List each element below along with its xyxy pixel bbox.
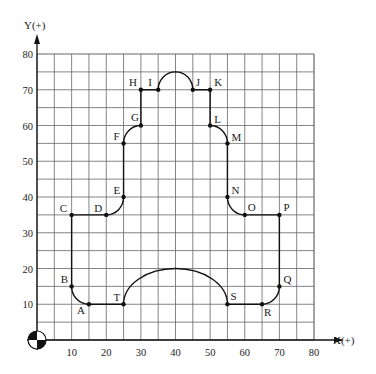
point-label: E	[114, 184, 121, 196]
point-j	[191, 88, 195, 92]
x-tick-label: 20	[101, 347, 112, 358]
point-f	[121, 141, 125, 145]
work-zero-quadrant-icon	[28, 331, 46, 349]
grid	[37, 54, 314, 340]
point-o	[243, 213, 247, 217]
diagram-canvas: 10203040506070801020304050607080 ABCDEFG…	[0, 0, 376, 374]
point-s	[225, 302, 229, 306]
point-label: F	[114, 130, 120, 142]
point-label: B	[61, 273, 68, 285]
point-label: P	[283, 201, 289, 213]
point-label: J	[196, 76, 201, 88]
point-label: O	[248, 201, 256, 213]
point-l	[208, 123, 212, 127]
point-n	[225, 195, 229, 199]
point-k	[208, 88, 212, 92]
y-axis-label: Y(+)	[24, 19, 46, 32]
point-c	[69, 213, 73, 217]
y-tick-label: 20	[23, 264, 34, 275]
point-label: M	[231, 131, 241, 143]
axes: 10203040506070801020304050607080	[23, 34, 345, 358]
y-tick-label: 10	[23, 299, 34, 310]
point-label: R	[264, 306, 272, 318]
x-tick-label: 60	[240, 347, 251, 358]
point-label: S	[230, 290, 236, 302]
point-q	[277, 284, 281, 288]
point-g	[139, 123, 143, 127]
x-tick-label: 80	[309, 347, 320, 358]
point-label: N	[231, 184, 239, 196]
point-e	[121, 195, 125, 199]
x-tick-label: 10	[66, 347, 77, 358]
y-tick-label: 40	[23, 192, 34, 203]
y-tick-label: 80	[23, 49, 34, 60]
y-tick-label: 30	[23, 228, 34, 239]
point-m	[225, 141, 229, 145]
point-p	[277, 213, 281, 217]
point-label: K	[214, 76, 222, 88]
y-tick-label: 70	[23, 85, 34, 96]
point-label: A	[77, 304, 85, 316]
point-label: C	[60, 202, 67, 214]
x-tick-label: 30	[136, 347, 147, 358]
x-tick-label: 50	[205, 347, 216, 358]
point-t	[121, 302, 125, 306]
point-i	[156, 88, 160, 92]
point-label: D	[94, 202, 102, 214]
point-a	[87, 302, 91, 306]
point-label: T	[114, 291, 121, 303]
point-b	[69, 284, 73, 288]
point-label: I	[148, 76, 152, 88]
point-label: G	[131, 111, 139, 123]
x-axis-label: X(+)	[333, 334, 355, 347]
x-tick-label: 70	[274, 347, 285, 358]
toolpath-diagram: 10203040506070801020304050607080 ABCDEFG…	[0, 0, 376, 374]
y-tick-label: 50	[23, 156, 34, 167]
point-label: H	[129, 76, 137, 88]
point-label: Q	[283, 273, 291, 285]
point-label: L	[214, 113, 221, 125]
point-d	[104, 213, 108, 217]
y-tick-label: 60	[23, 121, 34, 132]
x-tick-label: 40	[170, 347, 181, 358]
point-h	[139, 88, 143, 92]
